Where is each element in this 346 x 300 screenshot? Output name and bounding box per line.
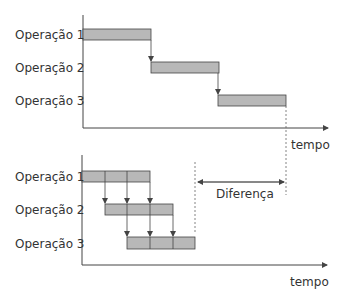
diagram-canvas: Operação 1 Operação 2 Operação 3 tempo xyxy=(0,0,346,300)
top-label-op2: Operação 2 xyxy=(15,61,84,75)
top-bar-op2 xyxy=(151,62,219,73)
top-label-op3: Operação 3 xyxy=(15,94,84,108)
bottom-bar-op1 xyxy=(82,171,150,182)
bottom-x-axis-label: tempo xyxy=(290,275,329,289)
bottom-label-op2: Operação 2 xyxy=(15,203,84,217)
bottom-label-op3: Operação 3 xyxy=(15,237,84,251)
top-diagram: Operação 1 Operação 2 Operação 3 tempo xyxy=(15,15,330,195)
top-bar-op1 xyxy=(83,29,151,40)
top-bar-op3 xyxy=(218,95,286,106)
difference-label: Diferença xyxy=(216,187,274,201)
top-label-op1: Operação 1 xyxy=(15,28,84,42)
bottom-bar-op3 xyxy=(127,237,195,249)
bottom-label-op1: Operação 1 xyxy=(15,170,84,184)
top-x-axis-label: tempo xyxy=(291,138,330,152)
bottom-bar-op2 xyxy=(105,204,173,215)
bottom-diagram: Diferença Operação 1 Operação 2 Operação… xyxy=(15,155,329,289)
